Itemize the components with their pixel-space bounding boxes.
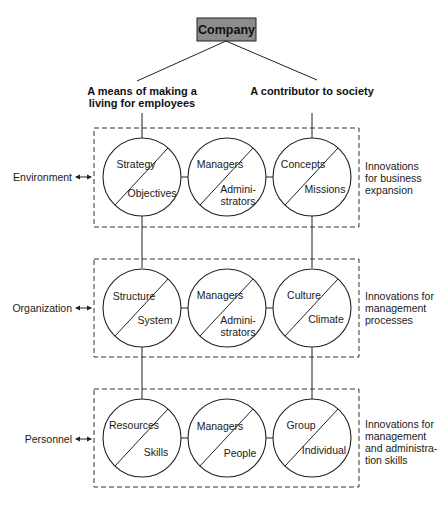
svg-text:Individual: Individual <box>302 444 346 456</box>
row-right-label-line1: Innovations for <box>365 290 434 302</box>
row-right-label-line3: expansion <box>365 184 413 196</box>
circle-node: Managers Admini- strators <box>188 138 266 216</box>
row-right-label-line1: Innovations for <box>365 418 434 430</box>
svg-text:Resources: Resources <box>109 419 159 431</box>
svg-text:Culture: Culture <box>287 289 321 301</box>
row-right-label-line1: Innovations <box>365 160 419 172</box>
double-headed-arrow-icon <box>75 437 92 442</box>
circle-node: Managers Admini- strators <box>188 269 266 347</box>
svg-text:Group: Group <box>286 419 315 431</box>
circle-node: Culture Climate <box>273 269 351 347</box>
svg-text:Admini-: Admini- <box>220 183 256 195</box>
row-environment: Environment Innovations for business exp… <box>13 128 422 227</box>
company-label: Company <box>198 23 255 37</box>
svg-text:strators: strators <box>220 326 255 338</box>
circle-node: Concepts Missions <box>273 138 351 216</box>
svg-text:Climate: Climate <box>308 313 344 325</box>
row-right-label-line3: processes <box>365 314 413 326</box>
svg-text:Managers: Managers <box>197 420 244 432</box>
svg-text:Managers: Managers <box>197 158 244 170</box>
svg-text:Admini-: Admini- <box>220 314 256 326</box>
connector-company-right <box>226 41 317 80</box>
company-innovation-diagram: Company A means of making a living for e… <box>0 0 446 510</box>
row-left-label: Personnel <box>25 433 72 445</box>
svg-text:People: People <box>224 447 257 459</box>
svg-text:Managers: Managers <box>197 289 244 301</box>
row-organization: Organization Innovations for management … <box>12 259 434 357</box>
circle-node: Resources Skills <box>103 399 181 477</box>
branch-right-line1: A contributor to society <box>250 85 375 97</box>
svg-text:Skills: Skills <box>144 446 169 458</box>
connector-company-left <box>137 41 226 81</box>
circle-node: Structure System <box>103 269 181 347</box>
row-right-label-line2: for business <box>365 172 422 184</box>
svg-text:strators: strators <box>220 195 255 207</box>
company-node: Company <box>197 18 256 41</box>
double-headed-arrow-icon <box>75 306 92 311</box>
row-right-label-line2: management <box>365 302 426 314</box>
branch-left-line2: living for employees <box>89 97 195 109</box>
row-left-label: Organization <box>12 302 72 314</box>
row-left-label: Environment <box>13 171 72 183</box>
svg-text:System: System <box>137 314 172 326</box>
branch-left-line1: A means of making a <box>87 85 198 97</box>
circle-node: Strategy Objectives <box>103 138 181 216</box>
circle-node: Group Individual <box>273 399 351 477</box>
double-headed-arrow-icon <box>75 175 92 180</box>
circle-node: Managers People <box>188 399 266 477</box>
row-right-label-line3: and administra- <box>365 442 438 454</box>
svg-text:Objectives: Objectives <box>127 187 176 199</box>
svg-text:Structure: Structure <box>113 290 156 302</box>
row-right-label-line2: management <box>365 430 426 442</box>
row-personnel: Personnel Innovations for management and… <box>25 389 438 487</box>
row-right-label-line4: tion skills <box>365 454 408 466</box>
svg-text:Strategy: Strategy <box>116 158 156 170</box>
svg-text:Missions: Missions <box>305 183 346 195</box>
svg-text:Concepts: Concepts <box>281 158 325 170</box>
